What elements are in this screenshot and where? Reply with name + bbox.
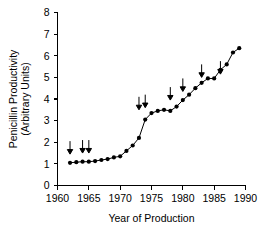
down-arrow-icon [199,64,204,77]
penicillin-productivity-chart: 012345678 1960196519701975198019851990 Y… [0,0,263,234]
data-point [93,159,97,163]
data-point [231,50,235,54]
data-point [237,46,241,50]
data-point [99,158,103,162]
y-tick-label: 5 [44,71,50,83]
x-tick-label: 1975 [140,192,164,204]
data-point [87,160,91,164]
data-point [187,93,191,97]
x-axis: 1960196519701975198019851990 [46,186,258,204]
event-arrows [67,61,223,154]
data-point [112,155,116,159]
data-point [200,81,204,85]
down-arrow-icon [143,95,148,108]
data-point [124,149,128,153]
data-point [143,117,147,121]
x-tick-label: 1960 [46,192,70,204]
x-tick-label: 1980 [171,192,195,204]
data-point [149,111,153,115]
series-group [68,46,241,165]
data-point [118,154,122,158]
down-arrow-icon [180,78,185,91]
y-tick-label: 6 [44,50,50,62]
y-axis-title-line2: (Arbitrary Units) [19,62,31,136]
y-axis-ticks [54,13,58,186]
data-point [206,76,210,80]
data-point [106,157,110,161]
data-point [212,76,216,80]
y-axis-tick-labels: 012345678 [44,6,50,191]
down-arrow-icon [80,140,85,153]
data-point [193,86,197,90]
down-arrow-icon [168,87,173,100]
data-point [74,160,78,164]
y-axis-title-line1: Penicillin Productivity [7,49,19,148]
chart-canvas: 012345678 1960196519701975198019851990 Y… [0,0,263,234]
data-point [174,104,178,108]
y-tick-label: 7 [44,28,50,40]
x-tick-label: 1965 [77,192,101,204]
y-tick-label: 8 [44,6,50,18]
data-point [168,109,172,113]
productivity-markers [68,46,241,165]
down-arrow-icon [86,140,91,153]
data-point [156,109,160,113]
x-tick-label: 1985 [202,192,226,204]
down-arrow-icon [136,97,141,110]
y-tick-label: 1 [44,158,50,170]
data-point [68,161,72,165]
x-tick-label: 1990 [234,192,258,204]
data-point [137,136,141,140]
y-tick-label: 4 [44,93,50,105]
productivity-line [70,48,239,163]
y-tick-label: 2 [44,136,50,148]
y-tick-label: 0 [44,179,50,191]
x-axis-tick-labels: 1960196519701975198019851990 [46,192,258,204]
data-point [162,108,166,112]
data-point [80,160,84,164]
x-axis-ticks [58,186,246,190]
x-axis-title: Year of Production [108,212,194,224]
y-tick-label: 3 [44,114,50,126]
data-point [131,143,135,147]
data-point [225,62,229,66]
down-arrow-icon [67,141,72,154]
y-axis: 012345678 [44,6,58,191]
data-point [181,98,185,102]
x-tick-label: 1970 [108,192,132,204]
